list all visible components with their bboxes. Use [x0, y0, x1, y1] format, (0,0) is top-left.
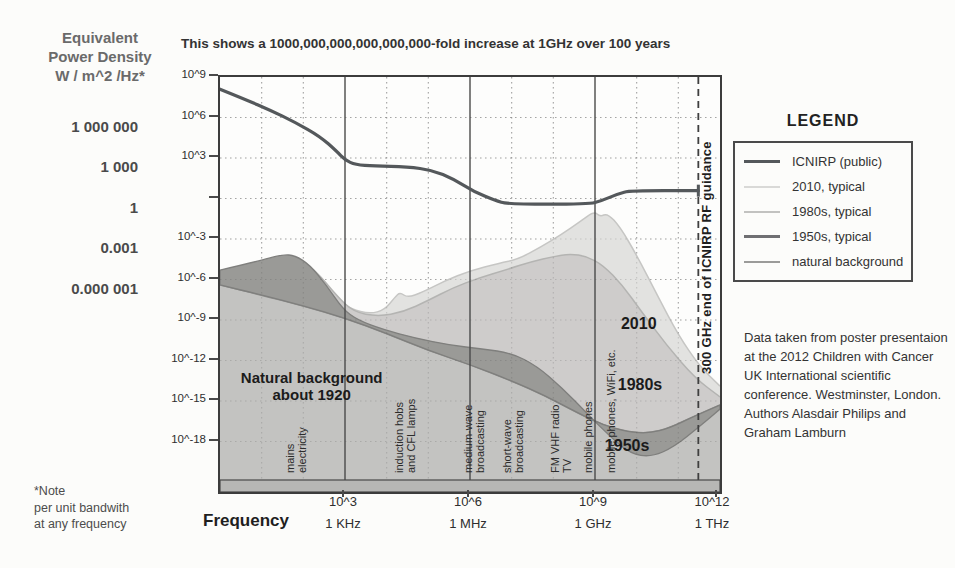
y-tick-mark — [209, 74, 218, 76]
y-tick-label: 10^9 — [148, 68, 206, 80]
equivalent-value: 1 000 000 — [26, 118, 138, 135]
equivalent-value: 0.001 — [26, 239, 138, 256]
y-tick-label: 10^-6 — [148, 271, 206, 283]
band-label: mobile phones, WiFi, etc. — [606, 350, 618, 474]
x-tick-unit-label: 1 GHz — [558, 516, 628, 531]
legend-line-sample — [744, 235, 780, 238]
y-tick-mark — [209, 398, 218, 400]
y-tick-label: 10^-12 — [148, 352, 206, 364]
y-tick-label: 10^-9 — [148, 311, 206, 323]
equivalent-value: 0.000 001 — [26, 280, 138, 297]
y-tick-mark — [209, 236, 218, 238]
legend-entry: 2010, typical — [735, 174, 911, 199]
x-tick-unit-label: 1 THz — [677, 516, 747, 531]
band-label: induction hobs and CFL lamps — [394, 399, 417, 473]
legend-title: LEGEND — [733, 112, 913, 130]
x-tick-mark — [467, 490, 469, 497]
legend-line-sample — [744, 186, 780, 188]
x-tick-mark — [715, 490, 717, 497]
y-tick-mark — [209, 115, 218, 117]
legend-line-sample — [744, 211, 780, 213]
y-tick-label: 10^3 — [148, 149, 206, 161]
footnote: *Note per unit bandwith at any frequency — [34, 483, 129, 533]
y-tick-mark — [209, 196, 218, 198]
plot-area: 20101980s1950sNatural background about 1… — [218, 75, 722, 494]
chart-page: Equivalent Power Density W / m^2 /Hz* Th… — [0, 0, 955, 568]
legend-entry: 1950s, typical — [735, 224, 911, 249]
source-note: Data taken from poster presentaion at th… — [744, 328, 950, 442]
x-tick-mark — [342, 490, 344, 497]
y-tick-label: 10^6 — [148, 109, 206, 121]
y-tick-mark — [209, 439, 218, 441]
band-label: medium-wave broadcasting — [463, 405, 486, 473]
region-label-1950s: 1950s — [587, 437, 667, 455]
y-tick-mark — [209, 155, 218, 157]
dashed-line-label: 300 GHz end of ICNIRP RF guidance — [701, 141, 713, 374]
legend-box: ICNIRP (public)2010, typical1980s, typic… — [733, 141, 913, 282]
legend-entry-label: natural background — [792, 254, 903, 269]
natural-background-label: Natural background about 1920 — [227, 369, 397, 403]
legend-line-sample — [744, 160, 780, 163]
legend-entry: natural background — [735, 249, 911, 274]
band-label: FM VHF radio TV — [550, 405, 573, 473]
band-label: short-wave broadcasting — [502, 410, 525, 473]
band-label: mobile phones — [583, 401, 595, 473]
y-tick-label: 10^-3 — [148, 230, 206, 242]
chart-title: This shows a 1000,000,000,000,000,000-fo… — [181, 36, 670, 51]
y-tick-mark — [209, 317, 218, 319]
y-tick-label: 10^-15 — [148, 392, 206, 404]
y-tick-mark — [209, 277, 218, 279]
region-label-2010: 2010 — [599, 315, 679, 333]
legend-entry-label: 2010, typical — [792, 179, 865, 194]
x-tick-unit-label: 1 KHz — [308, 516, 378, 531]
y-tick-label: 10^-18 — [148, 433, 206, 445]
x-tick-mark — [592, 490, 594, 497]
y-tick-mark — [209, 358, 218, 360]
legend-entry: ICNIRP (public) — [735, 149, 911, 174]
x-axis-label: Frequency — [203, 511, 289, 531]
x-tick-exp-label: 10^12 — [677, 494, 747, 509]
equivalent-value: 1 000 — [26, 158, 138, 175]
legend-entry-label: ICNIRP (public) — [792, 154, 882, 169]
legend-entry-label: 1980s, typical — [792, 204, 872, 219]
legend-line-sample — [744, 261, 780, 263]
legend: LEGEND ICNIRP (public)2010, typical1980s… — [733, 112, 913, 282]
equivalent-value: 1 — [26, 199, 138, 216]
legend-entry-label: 1950s, typical — [792, 229, 872, 244]
band-label: mains electricity — [285, 427, 308, 473]
legend-entry: 1980s, typical — [735, 199, 911, 224]
x-tick-unit-label: 1 MHz — [433, 516, 503, 531]
